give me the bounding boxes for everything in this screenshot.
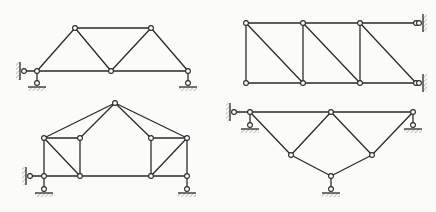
truss-member [291, 112, 331, 155]
truss-joint [109, 69, 114, 74]
truss-joint [113, 101, 118, 106]
truss-joint [78, 136, 83, 141]
truss-joint [185, 174, 190, 179]
truss-joint [42, 136, 47, 141]
truss-diagram-canvas [0, 0, 436, 212]
support-pin [28, 174, 33, 179]
support-pin [185, 187, 190, 192]
truss-joint [289, 153, 294, 158]
truss-joint [370, 153, 375, 158]
support-pin [42, 187, 47, 192]
truss-joint [149, 174, 154, 179]
truss-4 [226, 103, 422, 197]
support-pin [248, 123, 253, 128]
truss-member [151, 28, 188, 71]
truss-joint [149, 26, 154, 31]
truss-joint [329, 110, 334, 115]
truss-joint [73, 26, 78, 31]
truss-member [75, 28, 111, 71]
truss-member [246, 23, 303, 83]
truss-member [80, 103, 115, 138]
truss-2 [244, 14, 427, 92]
support-pin [186, 81, 191, 86]
truss-member [331, 155, 372, 176]
truss-joint [186, 69, 191, 74]
truss-member [360, 23, 416, 83]
truss-joint [301, 21, 306, 26]
truss-member [331, 112, 372, 155]
truss-member [37, 28, 75, 71]
truss-joint [301, 81, 306, 86]
truss-member [372, 112, 413, 155]
truss-joint [248, 110, 253, 115]
truss-member [291, 155, 331, 176]
truss-diagram [0, 0, 436, 212]
truss-joint [42, 174, 47, 179]
truss-joint [358, 81, 363, 86]
truss-member [115, 103, 187, 138]
truss-member [250, 112, 291, 155]
truss-joint [149, 136, 154, 141]
truss-joint [78, 174, 83, 179]
truss-joint [185, 136, 190, 141]
truss-member [303, 23, 360, 83]
support-pin [22, 69, 27, 74]
truss-3 [22, 101, 196, 197]
support-pin [411, 123, 416, 128]
support-pin [329, 187, 334, 192]
truss-1 [16, 26, 197, 91]
support-pin [232, 110, 237, 115]
support-pin [35, 81, 40, 86]
truss-member [44, 103, 115, 138]
truss-joint [329, 174, 334, 179]
truss-joint [411, 110, 416, 115]
truss-joint [35, 69, 40, 74]
truss-member [115, 103, 151, 138]
support-pin [417, 81, 422, 86]
truss-joint [244, 21, 249, 26]
truss-member [44, 138, 80, 176]
truss-joint [358, 21, 363, 26]
truss-joint [244, 81, 249, 86]
truss-member [111, 28, 151, 71]
truss-member [151, 138, 187, 176]
support-pin [417, 21, 422, 26]
